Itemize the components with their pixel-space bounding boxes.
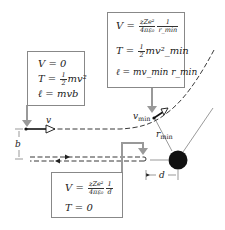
- connector-arrow-icon: [138, 148, 148, 155]
- initial-state-box: V = 0 T = 12mv² ℓ = mvb: [27, 51, 85, 106]
- v-arrow-icon: [46, 125, 55, 133]
- arrow-out-icon: [55, 159, 60, 164]
- connector-arrow-icon: [22, 120, 32, 127]
- label-v: v: [46, 116, 51, 125]
- headon-kinetic: T = 0: [65, 203, 93, 213]
- arrow-in-icon: [65, 155, 70, 160]
- closest-angular-momentum: ℓ = mv_min r_min: [116, 68, 197, 77]
- label-v-min: vmin: [133, 112, 151, 123]
- asymptote-line: [183, 108, 213, 152]
- nucleus: [169, 151, 188, 170]
- closest-potential: V = zZe²4πε₀1r_min: [116, 19, 179, 34]
- initial-kinetic: T = 12mv²: [38, 72, 87, 87]
- initial-potential: V = 0: [38, 59, 66, 69]
- label-r-min: rmin: [156, 130, 173, 141]
- closest-approach-box: V = zZe²4πε₀1r_min T = 12mv²_min ℓ = mv_…: [107, 12, 185, 88]
- label-b: b: [15, 140, 21, 149]
- closest-kinetic: T = 12mv²_min: [116, 44, 189, 59]
- headon-potential: V = zZe²4πε₀1d: [65, 181, 114, 196]
- turnaround: [144, 157, 146, 161]
- headon-box: V = zZe²4πε₀1d T = 0: [51, 172, 123, 218]
- vmin-arrow-icon: [161, 108, 168, 115]
- initial-angular-momentum: ℓ = mvb: [38, 89, 78, 99]
- label-d: d: [159, 171, 165, 180]
